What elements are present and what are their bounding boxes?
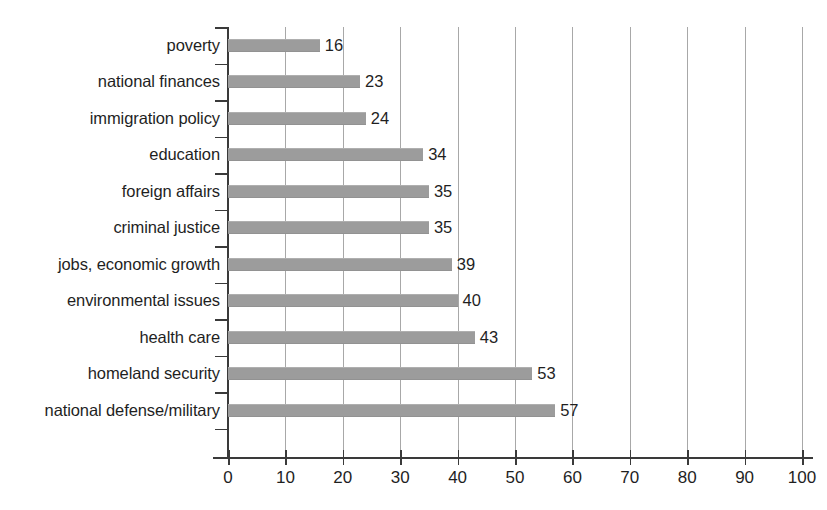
x-axis-tick — [687, 450, 689, 465]
x-axis-tick-label: 0 — [198, 468, 258, 488]
x-axis-tick — [285, 450, 287, 465]
x-axis-tick-label: 20 — [313, 468, 373, 488]
x-axis-tick — [458, 450, 460, 465]
bar-chart: poverty16national finances23immigration … — [0, 0, 827, 510]
x-axis-tick — [802, 450, 804, 465]
x-axis-tick — [515, 450, 517, 465]
x-axis-tick-label: 70 — [600, 468, 660, 488]
x-axis-tick — [572, 450, 574, 465]
x-axis-tick — [228, 450, 230, 465]
x-axis-tick — [630, 450, 632, 465]
x-axis-tick-label: 10 — [255, 468, 315, 488]
x-axis-tick-label: 100 — [772, 468, 827, 488]
x-axis-tick — [745, 450, 747, 465]
x-axis-tick-label: 40 — [428, 468, 488, 488]
x-axis-tick-label: 80 — [657, 468, 717, 488]
x-axis-tick — [343, 450, 345, 465]
x-axis-tick — [400, 450, 402, 465]
x-axis-ticks: 0102030405060708090100 — [0, 0, 827, 510]
x-axis-tick-label: 90 — [715, 468, 775, 488]
x-axis-tick-label: 60 — [542, 468, 602, 488]
x-axis-tick-label: 50 — [485, 468, 545, 488]
x-axis-tick-label: 30 — [370, 468, 430, 488]
